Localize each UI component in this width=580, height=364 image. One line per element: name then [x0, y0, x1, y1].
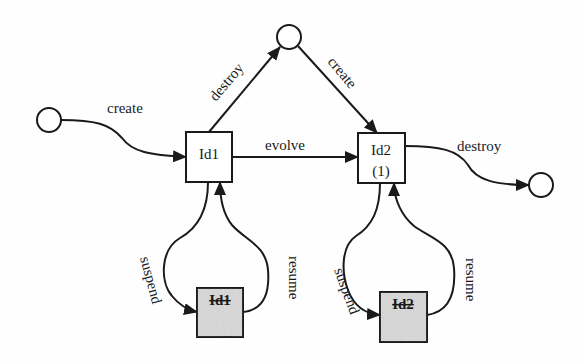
top-state-circle	[277, 25, 301, 49]
label-suspend-2: suspend	[331, 266, 363, 317]
id1-suspended-label: Id1	[209, 292, 231, 308]
label-resume-2: resume	[463, 258, 479, 302]
label-evolve: evolve	[265, 137, 305, 153]
label-destroy-2: destroy	[457, 138, 502, 154]
id2-sublabel: (1)	[372, 163, 390, 180]
label-suspend-1: suspend	[137, 255, 165, 306]
id2-suspended-label: Id2	[392, 296, 414, 312]
initial-state-circle	[37, 108, 61, 132]
label-destroy-1: destroy	[206, 59, 247, 103]
label-create-1: create	[107, 100, 143, 116]
id2-label: Id2	[371, 142, 391, 158]
edge-create-1	[61, 120, 186, 157]
state-diagram: Id1 Id2 (1) Id1 Id2 create destroy creat…	[0, 0, 580, 364]
label-resume-1: resume	[286, 256, 302, 300]
id1-label: Id1	[199, 146, 219, 162]
final-state-circle	[529, 173, 553, 197]
label-create-2: create	[325, 54, 360, 92]
